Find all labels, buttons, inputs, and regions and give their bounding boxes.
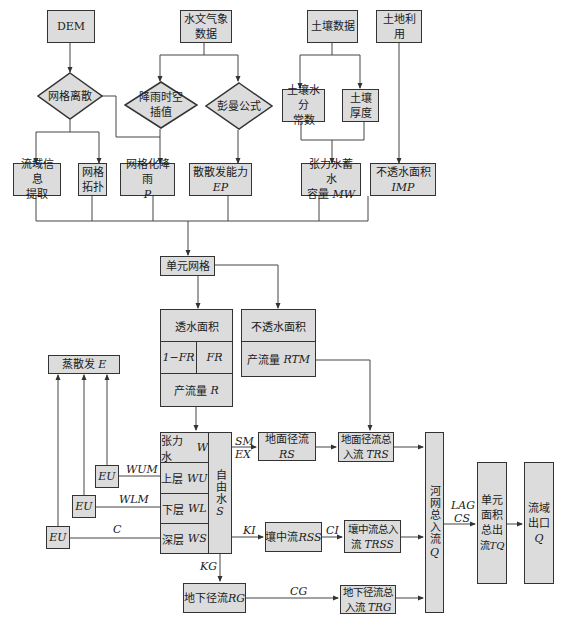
upper-layer-label: 上层 — [161, 470, 183, 486]
rain-interp-diamond: 降雨时空 插值 — [124, 81, 198, 129]
pervious-runoff-label: 产流量 — [174, 382, 207, 398]
outlet-symbol: Q — [534, 531, 543, 546]
soil-water-const-label-1: 土壤水分 — [285, 83, 322, 113]
interflow-box: 壤中流RSS — [265, 522, 322, 552]
tension-water-label: 张力水 — [161, 432, 193, 464]
groundwater-total-label-1: 地下径流总 — [343, 585, 393, 600]
grid-discretize-diamond: 网格离散 — [37, 72, 103, 120]
eu-lower-label: EU — [75, 499, 92, 514]
surface-total-label-2: 入流 — [343, 448, 363, 460]
interflow-label: 壤中流 — [265, 530, 298, 545]
eu-box-lower: EU — [72, 495, 96, 518]
pervious-title: 透水面积 — [175, 318, 219, 334]
outlet-label-2: 出口 — [528, 516, 550, 531]
soil-data-box: 土壤数据 — [307, 10, 358, 43]
edge-label-sm: SM — [235, 436, 254, 448]
evap-symbol: E — [98, 357, 106, 372]
evap-box: 蒸散发 E — [48, 355, 120, 374]
interflow-symbol: RSS — [298, 530, 321, 545]
penman-diamond: 彭曼公式 — [205, 82, 273, 130]
impervious-title: 不透水面积 — [251, 318, 306, 334]
interflow-total-line-2: 流 TRSS — [351, 537, 393, 552]
groundwater-total-box: 地下径流总 入流 TRG — [340, 585, 396, 614]
impervious-runoff-cell: 产流量 RTM — [241, 341, 316, 377]
tension-water-cell: 张力水 W — [160, 432, 209, 463]
unit-outflow-line-4: 流TQ — [480, 538, 505, 553]
hydro-meteo-box: 水文气象 数据 — [180, 10, 232, 43]
watershed-info-box: 流域信息 提取 — [13, 163, 61, 196]
interflow-total-symbol: TRSS — [365, 538, 394, 550]
interflow-total-label-1: 壤中流总入 — [348, 522, 398, 537]
dem-label: DEM — [57, 19, 85, 34]
deep-layer-symbol: WS — [188, 532, 207, 545]
soil-thickness-label-1: 土壤 — [350, 91, 372, 106]
pervious-title-cell: 透水面积 — [160, 309, 233, 342]
groundwater-total-symbol: TRG — [368, 601, 391, 613]
surface-total-line-2: 入流 TRS — [343, 447, 388, 462]
edge-label-wlm: WLM — [119, 494, 149, 506]
surface-total-symbol: TRS — [367, 448, 389, 460]
surface-total-label-1: 地面径流总 — [341, 432, 391, 447]
impervious-box: 不透水面积 IMP — [370, 163, 436, 196]
pervious-runoff-symbol: R — [211, 384, 219, 397]
unit-grid-box: 单元网格 — [160, 256, 215, 276]
surface-runoff-label: 地面径流 — [265, 432, 309, 447]
edge-label-cs: CS — [454, 513, 470, 525]
interflow-total-label-2: 流 — [351, 538, 361, 550]
hydro-meteo-label-1: 水文气象 — [184, 12, 228, 27]
soil-water-const-label-2: 常数 — [293, 113, 315, 128]
edge-label-ci: CI — [326, 525, 339, 537]
river-inflow-label: 河网总入流 — [427, 485, 442, 545]
soil-water-const-box: 土壤水分 常数 — [282, 89, 325, 122]
tension-water-symbol: W — [197, 441, 208, 454]
impervious-symbol: IMP — [391, 180, 414, 195]
penman-label: 彭曼公式 — [217, 99, 261, 114]
groundwater-total-label-2: 入流 — [345, 601, 365, 613]
tension-capacity-label-1: 张力水蓄水 — [304, 157, 358, 187]
eu-box-deep: EU — [46, 526, 70, 549]
interflow-total-box: 壤中流总入 流 TRSS — [344, 520, 401, 553]
watershed-info-label-1: 流域信息 — [16, 157, 58, 187]
tension-capacity-symbol: MW — [332, 188, 355, 201]
upper-layer-cell: 上层 WU — [160, 462, 209, 494]
land-use-box: 土地利用 — [376, 10, 422, 43]
free-water-label: 自由水 — [212, 469, 228, 505]
grid-rain-box: 网格化降雨 P — [120, 163, 175, 196]
edge-label-lag: LAG — [451, 500, 475, 512]
evap-label: 蒸散发 — [62, 357, 95, 372]
grid-topology-label-2: 拓扑 — [82, 180, 104, 195]
upper-layer-symbol: WU — [187, 472, 208, 485]
deep-layer-cell: 深层 WS — [160, 523, 209, 554]
grid-discretize-label: 网格离散 — [48, 89, 92, 104]
impervious-runoff-label: 产流量 — [247, 351, 280, 367]
surface-runoff-box: 地面径流 RS — [258, 432, 316, 461]
edge-label-ki: KI — [243, 525, 256, 537]
lower-layer-cell: 下层 WL — [160, 493, 209, 524]
evap-capacity-box: 散散发能力 EP — [189, 163, 252, 196]
pervious-left-label: 1−FR — [162, 351, 194, 364]
pervious-left-cell: 1−FR — [160, 341, 197, 374]
rain-interp-label-1: 降雨时空 — [139, 90, 183, 105]
unit-outflow-label-2: 面积 — [481, 508, 503, 523]
land-use-label: 土地利用 — [379, 12, 419, 42]
unit-grid-label: 单元网格 — [166, 259, 210, 274]
river-inflow-symbol: Q — [430, 545, 439, 560]
grid-rain-label: 网格化降雨 — [123, 157, 172, 187]
pervious-right-cell: FR — [196, 341, 233, 374]
eu-box-upper: EU — [95, 465, 119, 488]
free-water-cell: 自由水 S — [208, 432, 232, 554]
eu-upper-label: EU — [98, 469, 115, 484]
groundwater-symbol: RG — [228, 591, 245, 606]
rain-interp-label-2: 插值 — [150, 105, 172, 120]
soil-thickness-label-2: 厚度 — [350, 106, 372, 121]
lower-layer-symbol: WL — [188, 502, 207, 515]
edge-label-wum: WUM — [126, 464, 158, 476]
evap-capacity-label: 散散发能力 — [193, 165, 248, 180]
groundwater-label: 地下径流 — [184, 591, 228, 606]
unit-outflow-label-3: 总出 — [481, 523, 503, 538]
surface-runoff-symbol: RS — [279, 447, 295, 462]
soil-data-label: 土壤数据 — [311, 19, 355, 34]
edge-label-cg: CG — [290, 586, 307, 598]
pervious-right-label: FR — [207, 351, 223, 364]
impervious-title-cell: 不透水面积 — [241, 309, 316, 342]
